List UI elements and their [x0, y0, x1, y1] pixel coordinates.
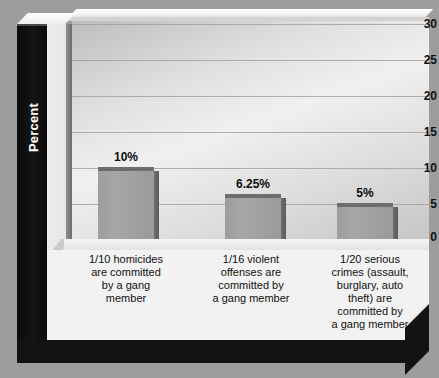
category-label-3-line-5: committed by — [311, 305, 429, 318]
bar-1-value-label: 10% — [96, 150, 156, 164]
y-tick-25: 25 — [413, 53, 437, 67]
y-tick-5: 5 — [413, 197, 437, 211]
category-label-1: 1/10 homicides are committed by a gang m… — [66, 253, 186, 305]
gridline-20 — [72, 96, 429, 97]
bar-chart: Percent 30 25 20 15 10 5 0 10% 6.25% 5% … — [0, 0, 439, 378]
category-label-1-line-1: 1/10 homicides — [66, 253, 186, 266]
y-tick-20: 20 — [413, 89, 437, 103]
frame-base — [17, 340, 417, 363]
category-label-1-line-4: member — [66, 292, 186, 305]
y-tick-30: 30 — [413, 17, 437, 31]
bar-3 — [337, 207, 393, 239]
gridline-30 — [72, 24, 429, 25]
bar-1 — [98, 171, 154, 239]
category-label-2-line-3: committed by — [191, 279, 311, 292]
category-label-3-line-3: burglary, auto — [311, 279, 429, 292]
category-label-2-line-1: 1/16 violent — [191, 253, 311, 266]
category-label-1-line-2: are committed — [66, 266, 186, 279]
bar-3-side — [393, 207, 398, 239]
gridline-25 — [72, 60, 429, 61]
bar-2-side — [281, 198, 286, 239]
category-label-3-line-4: theft) are — [311, 292, 429, 305]
axis-pillar-highlight — [17, 24, 47, 26]
bar-3-value-label: 5% — [335, 186, 395, 200]
y-axis-inner-shadow — [66, 24, 72, 239]
bar-2 — [225, 198, 281, 239]
chart-floor — [64, 239, 429, 250]
category-label-2-line-4: a gang member — [191, 292, 311, 305]
category-label-2: 1/16 violent offenses are committed by a… — [191, 253, 311, 305]
y-tick-10: 10 — [413, 161, 437, 175]
bar-1-side — [154, 171, 159, 239]
category-label-3-line-1: 1/20 serious — [311, 253, 429, 266]
bar-2-value-label: 6.25% — [220, 177, 286, 191]
gridline-15 — [72, 132, 429, 133]
y-tick-15: 15 — [413, 125, 437, 139]
y-axis-title: Percent — [26, 73, 41, 183]
category-label-3: 1/20 serious crimes (assault, burglary, … — [311, 253, 429, 331]
category-label-2-line-2: offenses are — [191, 266, 311, 279]
category-label-3-line-2: crimes (assault, — [311, 266, 429, 279]
category-label-1-line-3: by a gang — [66, 279, 186, 292]
